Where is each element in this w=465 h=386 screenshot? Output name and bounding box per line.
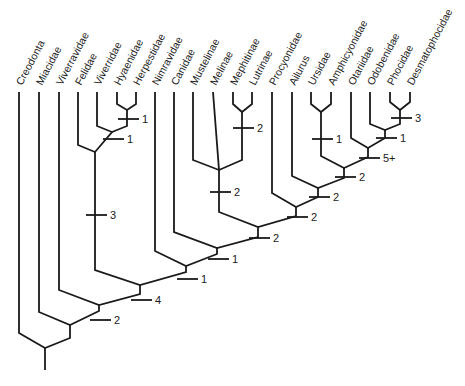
branches bbox=[19, 92, 410, 370]
felidae-branch bbox=[78, 92, 95, 152]
tick-count-label: 2 bbox=[359, 171, 365, 183]
character-tick: 1 bbox=[177, 273, 207, 285]
character-tick: 2 bbox=[210, 186, 240, 198]
node-arctoidea bbox=[321, 112, 368, 168]
character-tick: 3 bbox=[86, 209, 116, 221]
tick-count-label: 1 bbox=[127, 133, 133, 145]
tick-count-label: 2 bbox=[333, 191, 339, 203]
cladogram: CreodontaMiacidaeViverravidaeFelidaeVive… bbox=[0, 0, 465, 386]
character-tick: 2 bbox=[287, 211, 317, 223]
node-phocid-desmatophocid bbox=[390, 92, 410, 110]
node-crown bbox=[95, 152, 186, 285]
node-miacidae bbox=[39, 92, 99, 325]
tick-count-label: 2 bbox=[114, 314, 120, 326]
node-procyonidae bbox=[272, 92, 318, 207]
tick-count-label: 2 bbox=[273, 232, 279, 244]
tick-count-label: 2 bbox=[257, 122, 263, 134]
tick-count-label: 1 bbox=[400, 132, 406, 144]
character-ticks: 113221315+22221142 bbox=[86, 112, 421, 326]
node-pinnipedia bbox=[351, 92, 385, 148]
tick-count-label: 3 bbox=[415, 112, 421, 124]
node-odobenid bbox=[370, 92, 400, 130]
character-tick: 5+ bbox=[359, 152, 396, 164]
node-root bbox=[19, 92, 70, 348]
tick-count-label: 4 bbox=[155, 294, 161, 306]
node-viverrid bbox=[95, 92, 112, 152]
character-tick: 2 bbox=[249, 232, 279, 244]
taxon-labels: CreodontaMiacidaeViverravidaeFelidaeVive… bbox=[13, 6, 454, 87]
tick-count-label: 1 bbox=[336, 133, 342, 145]
node-ursid-amphicyonid bbox=[311, 92, 331, 112]
node-mustelidae-split bbox=[219, 170, 296, 227]
character-tick: 1 bbox=[376, 132, 406, 144]
node-mephitinae-lutrinae bbox=[233, 92, 252, 112]
tick-count-label: 5+ bbox=[383, 152, 396, 164]
tick-count-label: 2 bbox=[311, 211, 317, 223]
tick-count-label: 3 bbox=[110, 209, 116, 221]
character-tick: 2 bbox=[309, 191, 339, 203]
tick-count-label: 1 bbox=[232, 253, 238, 265]
tick-count-label: 1 bbox=[201, 273, 207, 285]
tick-count-label: 2 bbox=[234, 186, 240, 198]
node-canidae bbox=[174, 92, 258, 248]
character-tick: 1 bbox=[118, 113, 148, 125]
character-tick: 2 bbox=[90, 314, 120, 326]
character-tick: 3 bbox=[391, 112, 421, 124]
tick-count-label: 1 bbox=[142, 113, 148, 125]
character-tick: 2 bbox=[335, 171, 365, 183]
character-tick: 2 bbox=[233, 122, 263, 134]
node-mustelidae bbox=[193, 92, 242, 170]
node-nimravidae bbox=[155, 92, 217, 266]
character-tick: 1 bbox=[312, 133, 342, 145]
character-tick: 1 bbox=[103, 133, 133, 145]
node-hyaenid-herpestid bbox=[112, 92, 136, 132]
